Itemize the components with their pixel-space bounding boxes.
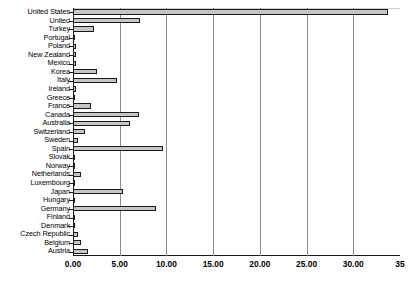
bar-row xyxy=(73,119,400,128)
y-axis-tick xyxy=(69,72,73,73)
x-axis-tick-label: 15.00 xyxy=(203,259,224,269)
bar-row xyxy=(73,102,400,111)
bar-row xyxy=(73,17,400,26)
bar-row xyxy=(73,51,400,60)
y-axis-tick xyxy=(69,12,73,13)
y-axis-tick xyxy=(69,209,73,210)
bar xyxy=(73,78,117,83)
bar xyxy=(73,26,94,31)
bar xyxy=(73,129,85,134)
y-axis-tick xyxy=(69,64,73,65)
y-axis-tick xyxy=(69,226,73,227)
y-axis-tick xyxy=(69,115,73,116)
bar xyxy=(73,69,97,74)
bar xyxy=(73,155,75,160)
y-axis-tick xyxy=(69,252,73,253)
y-axis-tick xyxy=(69,55,73,56)
bar xyxy=(73,198,75,203)
y-axis-tick xyxy=(69,149,73,150)
bar-row xyxy=(73,247,400,256)
y-axis-tick xyxy=(69,81,73,82)
y-axis-tick xyxy=(69,29,73,30)
x-axis-tick-label: 5.00 xyxy=(112,259,128,269)
y-axis-tick-label: Austria xyxy=(0,247,70,256)
bar xyxy=(73,9,388,14)
bar-row xyxy=(73,8,400,17)
bar xyxy=(73,172,81,177)
y-axis-tick xyxy=(69,106,73,107)
bar-row xyxy=(73,196,400,205)
bar xyxy=(73,240,81,245)
y-axis-tick xyxy=(69,89,73,90)
y-axis-tick xyxy=(69,192,73,193)
y-axis-tick xyxy=(69,200,73,201)
x-axis-tick-label: 20.00 xyxy=(249,259,270,269)
bar-row xyxy=(73,188,400,197)
bar-row xyxy=(73,111,400,120)
x-axis-tick-label: 35 xyxy=(395,259,404,269)
bar xyxy=(73,206,156,211)
bar xyxy=(73,18,140,23)
bar xyxy=(73,163,75,168)
bar-row xyxy=(73,94,400,103)
bar xyxy=(73,35,75,40)
value-axis-labels: 0.005.0010.0015.0020.0025.0030.0035 xyxy=(0,259,413,275)
y-axis-tick xyxy=(69,218,73,219)
bar-row xyxy=(73,162,400,171)
bar xyxy=(73,138,78,143)
bar-row xyxy=(73,153,400,162)
y-axis-tick xyxy=(69,141,73,142)
bar xyxy=(73,112,139,117)
bar-row xyxy=(73,34,400,43)
bar xyxy=(73,146,163,151)
bar xyxy=(73,61,76,66)
x-axis-tick-label: 25.00 xyxy=(296,259,317,269)
y-axis-tick xyxy=(69,166,73,167)
bar-row xyxy=(73,170,400,179)
bar xyxy=(73,223,75,228)
bar xyxy=(73,189,123,194)
bar-row xyxy=(73,213,400,222)
y-axis-tick xyxy=(69,46,73,47)
y-axis-tick xyxy=(69,175,73,176)
x-axis-tick-label: 10.00 xyxy=(156,259,177,269)
y-axis-tick xyxy=(69,183,73,184)
bar-row xyxy=(73,25,400,34)
bar xyxy=(73,232,78,237)
y-axis-tick xyxy=(69,38,73,39)
bar-row xyxy=(73,230,400,239)
bar xyxy=(73,95,75,100)
bar-row xyxy=(73,42,400,51)
y-axis-tick xyxy=(69,123,73,124)
bar-row xyxy=(73,59,400,68)
bar-row xyxy=(73,205,400,214)
bar xyxy=(73,180,75,185)
bar-row xyxy=(73,145,400,154)
y-axis-tick xyxy=(69,21,73,22)
bar xyxy=(73,215,75,220)
bar xyxy=(73,249,88,254)
y-axis-tick xyxy=(69,98,73,99)
bar xyxy=(73,103,91,108)
bar-row xyxy=(73,128,400,137)
bar xyxy=(73,44,76,49)
bar-row xyxy=(73,68,400,77)
y-axis-tick xyxy=(69,243,73,244)
y-axis-tick xyxy=(69,132,73,133)
bar-row xyxy=(73,239,400,248)
bar-row xyxy=(73,85,400,94)
x-axis-tick-label: 0.00 xyxy=(65,259,81,269)
bar xyxy=(73,52,76,57)
bar-row xyxy=(73,222,400,231)
category-axis-labels: United StatesUnitedTurkeyPortugalPolandN… xyxy=(0,8,70,256)
x-axis-tick-label: 30.00 xyxy=(343,259,364,269)
bar-row xyxy=(73,179,400,188)
plot-area xyxy=(73,8,400,256)
bar xyxy=(73,86,76,91)
bar-row xyxy=(73,76,400,85)
bar-row xyxy=(73,136,400,145)
bar xyxy=(73,121,130,126)
y-axis-tick xyxy=(69,235,73,236)
y-axis-tick xyxy=(69,158,73,159)
bar-chart: United StatesUnitedTurkeyPortugalPolandN… xyxy=(0,0,413,294)
